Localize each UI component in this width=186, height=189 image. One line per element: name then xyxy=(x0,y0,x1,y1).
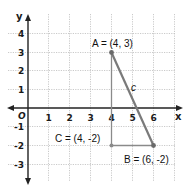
x-tick-3: 3 xyxy=(88,113,94,123)
x-tick-1: 1 xyxy=(46,113,52,123)
x-axis-left-arrow-icon xyxy=(7,105,14,111)
y-axis-down-arrow-icon xyxy=(25,178,31,185)
x-axis xyxy=(7,105,183,111)
y-tick-neg3: -3 xyxy=(14,160,24,170)
y-tick-neg1: -1 xyxy=(14,122,24,132)
point-b-label: B = (6, -2) xyxy=(124,154,169,165)
y-axis-label: y xyxy=(16,11,23,22)
y-tick-4: 4 xyxy=(18,29,24,39)
point-c-label: C = (4, -2) xyxy=(55,133,100,144)
hypotenuse-label: c xyxy=(131,82,136,93)
x-axis-label: x xyxy=(175,111,182,122)
y-axis xyxy=(25,14,31,185)
y-tick-3: 3 xyxy=(18,48,24,58)
x-tick-6: 6 xyxy=(151,113,157,123)
y-axis-up-arrow-icon xyxy=(25,14,31,21)
origin-label: O xyxy=(18,111,26,121)
y-tick-neg2: -2 xyxy=(14,141,24,151)
y-tick-2: 2 xyxy=(18,66,24,76)
x-tick-5: 5 xyxy=(130,113,136,123)
point-b xyxy=(151,143,156,148)
point-a xyxy=(109,50,114,55)
x-tick-2: 2 xyxy=(67,113,73,123)
triangle xyxy=(112,53,154,146)
point-a-label: A = (4, 3) xyxy=(92,38,133,49)
coordinate-plane: y x O 1 2 3 4 5 6 1 2 3 4 -1 -2 -3 A = (… xyxy=(0,0,186,189)
segment-ab-hypotenuse xyxy=(112,53,154,146)
y-tick-1: 1 xyxy=(18,85,24,95)
coordinate-plane-diagram: y x O 1 2 3 4 5 6 1 2 3 4 -1 -2 -3 A = (… xyxy=(0,0,186,189)
point-c xyxy=(110,144,114,148)
